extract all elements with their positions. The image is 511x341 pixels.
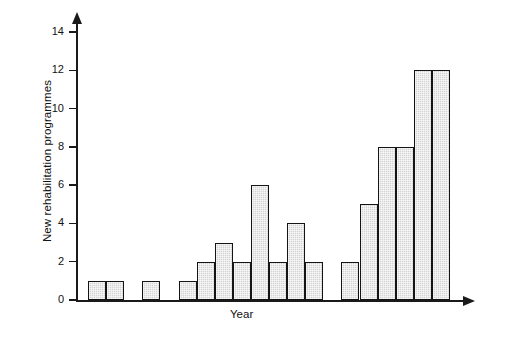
bar: [251, 185, 269, 300]
bar: [432, 70, 450, 300]
bar-chart: New rehabilitation programmes 0246810121…: [0, 0, 511, 341]
bar: [215, 243, 233, 300]
bar: [414, 70, 432, 300]
bars-container: [0, 0, 511, 341]
bar: [142, 281, 160, 300]
bar: [305, 262, 323, 300]
bar: [179, 281, 197, 300]
bar: [341, 262, 359, 300]
bar: [88, 281, 106, 300]
bar: [287, 223, 305, 300]
bar: [106, 281, 124, 300]
x-axis-title: Year: [230, 308, 253, 320]
bar: [396, 147, 414, 300]
bar: [233, 262, 251, 300]
bar: [378, 147, 396, 300]
bar: [197, 262, 215, 300]
bar: [360, 204, 378, 300]
bar: [269, 262, 287, 300]
